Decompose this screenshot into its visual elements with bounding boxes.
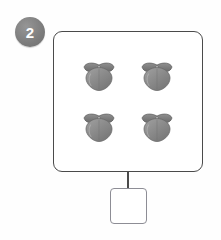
peach-fruit-icon	[140, 107, 174, 143]
items-grid	[54, 32, 202, 171]
peach-fruit-icon	[82, 107, 116, 143]
question-number-badge: 2	[15, 17, 45, 47]
answer-input-box[interactable]	[110, 188, 147, 224]
peach-fruit-icon	[140, 56, 174, 92]
peach-fruit-icon	[82, 56, 116, 92]
connector-line	[127, 172, 129, 189]
worksheet-canvas: 2	[0, 0, 221, 240]
answer-value[interactable]	[111, 189, 146, 223]
question-number-label: 2	[26, 24, 34, 39]
item-group-box	[53, 31, 203, 172]
